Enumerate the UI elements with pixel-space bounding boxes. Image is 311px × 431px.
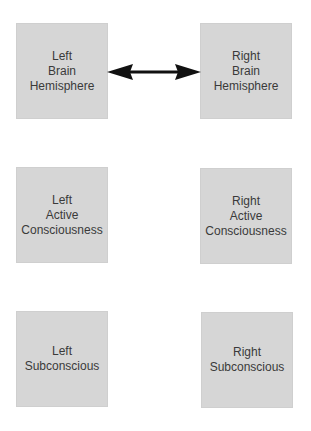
label-line: Active (230, 209, 263, 224)
box-label: Right Brain Hemisphere (214, 49, 279, 94)
box-right-brain-hemisphere: Right Brain Hemisphere (200, 23, 292, 119)
box-label: Left Brain Hemisphere (30, 49, 95, 94)
label-line: Consciousness (205, 224, 286, 239)
label-line: Left (52, 193, 72, 208)
box-left-subconscious: Left Subconscious (16, 311, 108, 407)
double-arrow-icon (106, 62, 202, 82)
label-line: Consciousness (21, 223, 102, 238)
label-line: Right (233, 345, 261, 360)
box-label: Left Active Consciousness (21, 193, 102, 238)
box-right-subconscious: Right Subconscious (201, 312, 293, 408)
label-line: Active (46, 208, 79, 223)
box-left-active-consciousness: Left Active Consciousness (16, 167, 108, 263)
label-line: Hemisphere (30, 79, 95, 94)
label-line: Left (52, 344, 72, 359)
label-line: Brain (48, 64, 76, 79)
label-line: Hemisphere (214, 79, 279, 94)
label-line: Brain (232, 64, 260, 79)
box-label: Right Active Consciousness (205, 194, 286, 239)
box-right-active-consciousness: Right Active Consciousness (200, 168, 292, 264)
label-line: Left (52, 49, 72, 64)
label-line: Subconscious (25, 359, 100, 374)
box-label: Left Subconscious (25, 344, 100, 374)
box-label: Right Subconscious (210, 345, 285, 375)
label-line: Right (232, 194, 260, 209)
label-line: Subconscious (210, 360, 285, 375)
label-line: Right (232, 49, 260, 64)
box-left-brain-hemisphere: Left Brain Hemisphere (16, 23, 108, 119)
